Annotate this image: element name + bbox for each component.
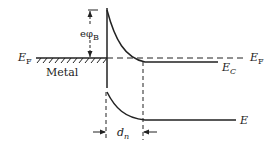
arrow-down-icon bbox=[88, 51, 93, 57]
arrow-left-icon bbox=[143, 130, 149, 135]
label-ef-left: EF bbox=[18, 52, 32, 66]
lower-band bbox=[107, 92, 236, 120]
label-ev: E bbox=[240, 115, 248, 126]
label-depletion-width: dn bbox=[117, 127, 129, 141]
conduction-band bbox=[107, 10, 218, 62]
label-barrier-height: eφB bbox=[80, 29, 99, 42]
arrow-right-icon bbox=[100, 130, 106, 135]
label-ef-right: EF bbox=[250, 52, 264, 66]
label-metal: Metal bbox=[46, 67, 78, 78]
label-ec: EC bbox=[222, 62, 236, 76]
arrow-up-icon bbox=[88, 11, 93, 17]
